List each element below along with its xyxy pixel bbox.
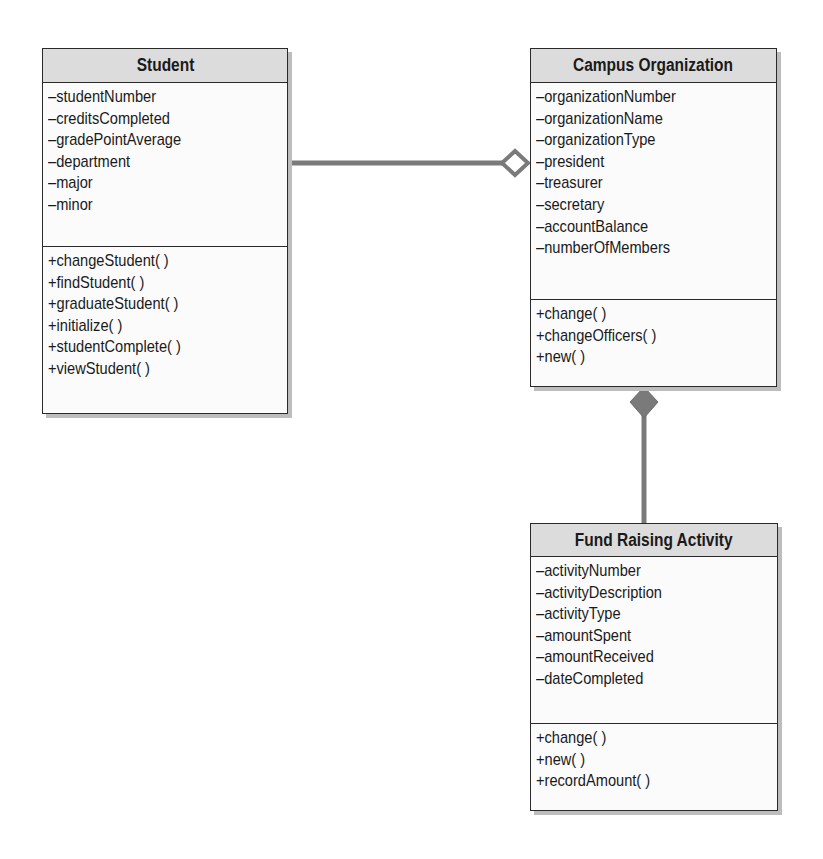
method: +viewStudent( ) [48,358,254,380]
attribute: –department [48,151,254,173]
attribute: –organizationNumber [536,86,742,108]
attributes-section: –organizationNumber –organizationName –o… [531,83,776,300]
attributes-section: –studentNumber –creditsCompleted –gradeP… [43,83,287,247]
hollow-diamond-icon [502,151,528,175]
class-fund-raising-activity[interactable]: Fund Raising Activity –activityNumber –a… [530,523,778,811]
class-name: Student [136,55,194,76]
attribute: –major [48,172,254,194]
class-name: Campus Organization [574,55,734,76]
composition-connector [630,387,658,523]
methods-section: +changeStudent( ) +findStudent( ) +gradu… [43,247,287,380]
attribute: –secretary [536,194,742,216]
attribute: –accountBalance [536,216,742,238]
attribute: –organizationType [536,129,742,151]
attribute: –studentNumber [48,86,254,108]
class-student[interactable]: Student –studentNumber –creditsCompleted… [42,48,288,414]
class-fund-raising-activity-header: Fund Raising Activity [531,524,777,557]
attribute: –amountSpent [536,625,743,647]
filled-diamond-icon [630,387,658,418]
method: +findStudent( ) [48,272,254,294]
class-campus-organization[interactable]: Campus Organization –organizationNumber … [530,48,777,387]
attribute: –treasurer [536,172,742,194]
method: +graduateStudent( ) [48,293,254,315]
attribute: –dateCompleted [536,668,743,690]
class-name: Fund Raising Activity [575,530,733,551]
method: +initialize( ) [48,315,254,337]
methods-section: +change( ) +new( ) +recordAmount( ) [531,724,777,792]
attribute: –activityType [536,603,743,625]
class-campus-organization-header: Campus Organization [531,49,776,83]
attribute: –minor [48,194,254,216]
methods-section: +change( ) +changeOfficers( ) +new( ) [531,300,776,368]
attribute: –activityDescription [536,582,743,604]
attribute: –president [536,151,742,173]
aggregation-connector [291,151,528,175]
method: +new( ) [536,346,742,368]
attribute: –amountReceived [536,646,743,668]
attributes-section: –activityNumber –activityDescription –ac… [531,557,777,724]
attribute: –activityNumber [536,560,743,582]
method: +changeStudent( ) [48,250,254,272]
method: +change( ) [536,303,742,325]
method: +change( ) [536,727,743,749]
method: +changeOfficers( ) [536,325,742,347]
attribute: –organizationName [536,108,742,130]
method: +recordAmount( ) [536,770,743,792]
method: +new( ) [536,749,743,771]
attribute: –numberOfMembers [536,237,742,259]
class-student-header: Student [43,49,287,83]
attribute: –gradePointAverage [48,129,254,151]
attribute: –creditsCompleted [48,108,254,130]
method: +studentComplete( ) [48,336,254,358]
